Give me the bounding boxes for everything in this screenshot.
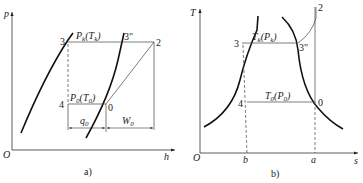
ph-diagram: p h O 3 3" 2 4 0 Pk(Tk) P0(T0) q0 W0 a) <box>3 8 175 178</box>
point-2-a: 2 <box>156 37 161 48</box>
point-4-b: 4 <box>238 98 243 109</box>
s-axis-label: s <box>354 155 358 166</box>
origin-label-a: O <box>3 149 10 160</box>
mark-a: a <box>311 154 316 165</box>
ts-diagram: T s O b a 3 3" 2 4 0 Tk(Pk) T0(P0) b) <box>190 2 358 180</box>
pk-tk-label: Pk(Tk) <box>75 30 101 43</box>
point-4-a: 4 <box>59 99 64 110</box>
point-3-a: 3 <box>60 36 65 47</box>
t-axis-label: T <box>190 7 197 18</box>
mark-b: b <box>243 154 248 165</box>
tk-pk-label: Tk(Pk) <box>252 31 277 44</box>
caption-a: a) <box>84 166 92 178</box>
h-axis-label: h <box>164 151 169 162</box>
refrigeration-cycle-diagrams: p h O 3 3" 2 4 0 Pk(Tk) P0(T0) q0 W0 a) <box>0 0 363 183</box>
p-axis-label: p <box>3 8 9 19</box>
point-3pp-a: 3" <box>124 31 133 42</box>
point-0-a: 0 <box>108 102 113 113</box>
saturated-liquid-curve-b <box>204 16 258 127</box>
saturated-vapor-curve-b <box>282 17 343 129</box>
caption-b: b) <box>271 168 279 180</box>
w0-label: W0 <box>122 115 134 128</box>
saturated-vapor-curve <box>86 33 124 138</box>
point-0-b: 0 <box>318 97 323 108</box>
p0-t0-label: P0(T0) <box>69 92 96 105</box>
point-3pp-b: 3" <box>299 42 308 53</box>
point-2-b: 2 <box>318 2 323 13</box>
q0-label: q0 <box>80 115 89 128</box>
point-3-b: 3 <box>234 38 239 49</box>
t0-p0-label: T0(P0) <box>265 90 291 103</box>
superheat-curve <box>298 7 316 43</box>
origin-label-b: O <box>193 152 200 163</box>
compression-line <box>106 42 154 104</box>
saturated-liquid-curve <box>21 33 73 133</box>
